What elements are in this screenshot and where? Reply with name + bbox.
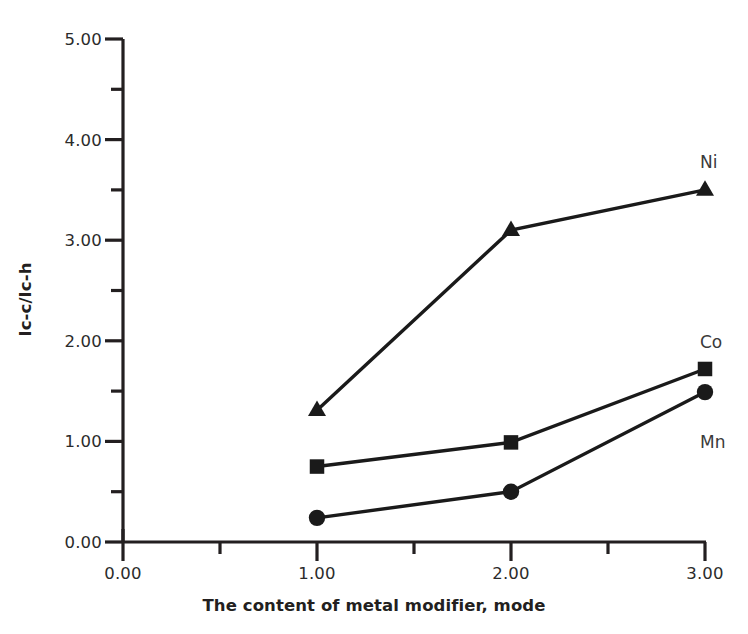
x-tick-label: 2.00 xyxy=(492,564,530,583)
series-label-ni: Ni xyxy=(700,152,717,172)
data-point-square xyxy=(310,459,325,474)
y-axis-title: Ic-c/Ic-h xyxy=(16,220,35,380)
x-axis-title: The content of metal modifier, mode xyxy=(0,596,748,615)
y-tick-label: 0.00 xyxy=(40,533,102,552)
data-point-circle xyxy=(697,384,713,400)
plot-canvas xyxy=(0,0,748,634)
y-tick-label: 2.00 xyxy=(40,331,102,350)
x-tick-label: 3.00 xyxy=(686,564,724,583)
data-point-square xyxy=(504,435,519,450)
x-tick-label: 1.00 xyxy=(298,564,336,583)
series-label-mn: Mn xyxy=(700,432,725,452)
y-tick-label: 5.00 xyxy=(40,30,102,49)
series-mn xyxy=(309,384,713,526)
data-point-circle xyxy=(503,484,519,500)
y-tick-label: 4.00 xyxy=(40,130,102,149)
series-label-co: Co xyxy=(700,332,722,352)
data-point-triangle xyxy=(696,180,714,196)
series-line xyxy=(317,369,705,467)
x-tick-label: 0.00 xyxy=(104,564,142,583)
axes xyxy=(105,39,706,561)
data-point-circle xyxy=(309,510,325,526)
series-ni xyxy=(308,180,714,416)
y-tick-label: 3.00 xyxy=(40,231,102,250)
chart-figure: 0.001.002.003.004.005.000.001.002.003.00… xyxy=(0,0,748,634)
data-series xyxy=(308,180,714,526)
y-tick-label: 1.00 xyxy=(40,432,102,451)
data-point-square xyxy=(698,362,713,377)
